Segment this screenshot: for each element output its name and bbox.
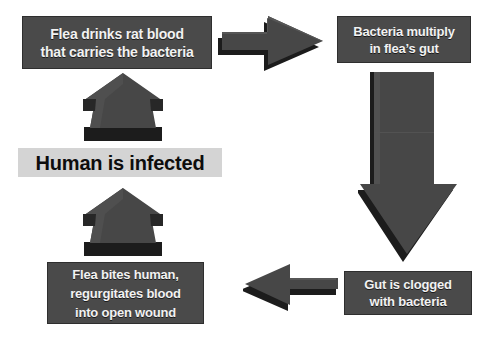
arrow-left-icon xyxy=(243,262,339,318)
flowchart-canvas: Flea drinks rat blood that carries the b… xyxy=(0,0,489,338)
node-gut-clogged-line-1: Gut is clogged xyxy=(364,276,451,293)
node-flea-drinks-rat-blood[interactable]: Flea drinks rat blood that carries the b… xyxy=(22,16,212,69)
arrow-up-icon xyxy=(74,71,172,145)
node-flea-bites-line-3: into open wound xyxy=(75,303,176,322)
node-bacteria-multiply-line-2: in flea’s gut xyxy=(369,40,438,57)
node-flea-drinks-line-1: Flea drinks rat blood xyxy=(50,25,184,43)
node-human-is-infected[interactable]: Human is infected xyxy=(18,148,222,177)
arrow-right-icon xyxy=(218,14,326,76)
node-gut-clogged-line-2: with bacteria xyxy=(370,293,447,310)
node-flea-bites-line-1: Flea bites human, xyxy=(72,265,178,284)
node-gut-is-clogged[interactable]: Gut is clogged with bacteria xyxy=(344,271,472,315)
node-flea-bites-line-2: regurgitates blood xyxy=(70,284,181,303)
node-human-infected-line-1: Human is infected xyxy=(36,151,205,175)
node-bacteria-multiply-line-1: Bacteria multiply xyxy=(353,23,454,40)
node-bacteria-multiply[interactable]: Bacteria multiply in flea’s gut xyxy=(337,16,471,63)
node-flea-drinks-line-2: that carries the bacteria xyxy=(41,43,194,61)
arrow-up-icon xyxy=(74,186,172,260)
node-flea-bites-human[interactable]: Flea bites human, regurgitates blood int… xyxy=(47,262,204,324)
arrow-down-icon xyxy=(358,72,462,264)
